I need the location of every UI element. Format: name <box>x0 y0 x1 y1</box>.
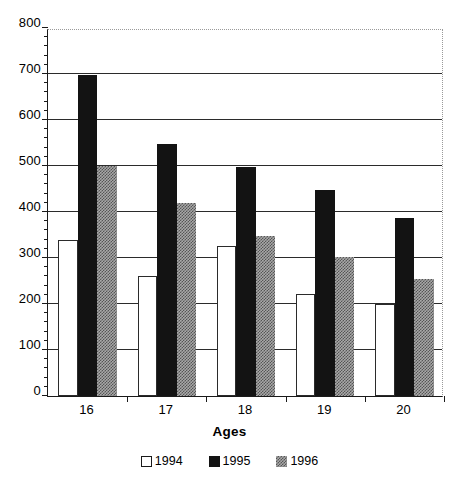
y-axis-minor-tick <box>44 367 48 368</box>
x-axis-tick <box>444 396 445 402</box>
bar-1996-age-19 <box>335 257 355 396</box>
y-axis-minor-tick <box>44 147 48 148</box>
y-axis-minor-tick <box>44 331 48 332</box>
bar-1995-age-17 <box>157 144 177 396</box>
x-axis-tick-label-16: 16 <box>79 403 93 416</box>
bar-chart: 0100200300400500600700800 1617181920 Age… <box>0 0 459 484</box>
y-axis-tick <box>42 349 48 350</box>
bar-1996-age-17 <box>177 203 197 396</box>
legend-swatch-solid-black-icon <box>209 456 220 467</box>
y-axis-minor-tick <box>44 202 48 203</box>
plot-area: 0100200300400500600700800 <box>47 29 443 397</box>
y-axis-minor-tick <box>44 248 48 249</box>
legend-label: 1996 <box>290 455 318 468</box>
bar-1994-age-20 <box>375 304 395 396</box>
y-axis-tick-label: 700 <box>19 61 41 74</box>
legend-swatch-checker-gray-icon <box>276 456 287 467</box>
bar-1995-age-20 <box>395 218 415 396</box>
y-axis-minor-tick <box>44 36 48 37</box>
y-axis-minor-tick <box>44 101 48 102</box>
bar-1994-age-18 <box>217 246 237 396</box>
y-axis-minor-tick <box>44 266 48 267</box>
y-axis-tick-label: 100 <box>19 337 41 350</box>
x-axis-tick-label-18: 18 <box>238 403 252 416</box>
x-axis-tick-label-20: 20 <box>396 403 410 416</box>
y-axis-tick <box>42 395 48 396</box>
y-axis-tick <box>42 303 48 304</box>
y-axis-minor-tick <box>44 174 48 175</box>
bar-1995-age-16 <box>78 75 98 396</box>
legend-label: 1995 <box>223 455 251 468</box>
legend-item-1994: 1994 <box>141 455 183 468</box>
y-axis-tick-label: 0 <box>34 383 41 396</box>
bar-1995-age-19 <box>315 190 335 396</box>
bar-1994-age-19 <box>296 294 316 396</box>
y-axis-minor-tick <box>44 82 48 83</box>
y-axis-tick-label: 500 <box>19 153 41 166</box>
x-axis-tick-label-19: 19 <box>317 403 331 416</box>
x-axis-title: Ages <box>0 424 459 439</box>
y-axis-minor-tick <box>44 239 48 240</box>
y-axis-minor-tick <box>44 285 48 286</box>
y-axis-minor-tick <box>44 156 48 157</box>
bar-1995-age-18 <box>236 167 256 396</box>
y-axis-tick <box>42 73 48 74</box>
y-axis-minor-tick <box>44 45 48 46</box>
y-axis-minor-tick <box>44 64 48 65</box>
bar-1994-age-17 <box>138 276 158 396</box>
y-axis-tick <box>42 257 48 258</box>
y-axis-tick-label: 800 <box>19 15 41 28</box>
y-axis-minor-tick <box>44 377 48 378</box>
y-axis-minor-tick <box>44 358 48 359</box>
gridline <box>48 73 442 74</box>
y-axis-tick-label: 400 <box>19 199 41 212</box>
x-axis-tick <box>127 396 128 402</box>
y-axis-minor-tick <box>44 312 48 313</box>
legend-item-1995: 1995 <box>209 455 251 468</box>
y-axis-minor-tick <box>44 386 48 387</box>
y-axis-minor-tick <box>44 110 48 111</box>
y-axis-tick-label: 600 <box>19 107 41 120</box>
bar-1994-age-16 <box>58 240 78 396</box>
y-axis-minor-tick <box>44 137 48 138</box>
legend-label: 1994 <box>155 455 183 468</box>
y-axis-tick <box>42 27 48 28</box>
x-axis-tick-label-17: 17 <box>159 403 173 416</box>
y-axis-minor-tick <box>44 183 48 184</box>
bar-1996-age-16 <box>97 166 117 396</box>
y-axis-minor-tick <box>44 91 48 92</box>
y-axis-minor-tick <box>44 340 48 341</box>
x-axis-tick <box>365 396 366 402</box>
legend-item-1996: 1996 <box>276 455 318 468</box>
y-axis-minor-tick <box>44 128 48 129</box>
y-axis-minor-tick <box>44 275 48 276</box>
y-axis-minor-tick <box>44 321 48 322</box>
y-axis-tick <box>42 211 48 212</box>
y-axis-minor-tick <box>44 229 48 230</box>
legend-swatch-open-white-icon <box>141 456 152 467</box>
y-axis-minor-tick <box>44 193 48 194</box>
y-axis-minor-tick <box>44 55 48 56</box>
y-axis-minor-tick <box>44 220 48 221</box>
y-axis-minor-tick <box>44 294 48 295</box>
y-axis-tick <box>42 165 48 166</box>
bar-1996-age-20 <box>414 279 434 396</box>
x-axis-tick <box>206 396 207 402</box>
gridline <box>48 119 442 120</box>
y-axis-tick <box>42 119 48 120</box>
x-axis-tick <box>286 396 287 402</box>
y-axis-tick-label: 200 <box>19 291 41 304</box>
chart-legend: 199419951996 <box>0 455 459 468</box>
bar-1996-age-18 <box>256 236 276 396</box>
y-axis-tick-label: 300 <box>19 245 41 258</box>
